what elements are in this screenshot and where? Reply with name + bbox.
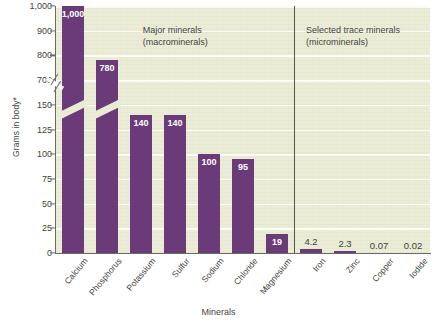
y-tickmark	[50, 104, 55, 105]
x-tick-label: Iodide	[407, 256, 430, 280]
annotation-line: (macrominerals)	[143, 37, 208, 49]
y-tickmark	[50, 80, 55, 81]
y-tick-label: 25	[8, 223, 52, 233]
bar-value-label: 95	[226, 162, 260, 172]
y-tick-label: 50	[8, 199, 52, 209]
y-tickmark	[50, 129, 55, 130]
bar-value-label: 100	[192, 157, 226, 167]
y-axis-tick-labels: 02550751001251507008009001,000	[8, 6, 52, 253]
bar-value-label: 140	[158, 118, 192, 128]
bar-value-label: 0.02	[396, 240, 430, 251]
annotation-trace-minerals: Selected trace minerals(microminerals)	[306, 25, 400, 48]
x-tick-label: Magnesium	[258, 256, 294, 296]
x-tick-label: Calcium	[62, 256, 89, 286]
x-tick-label: Phosphorus	[87, 256, 124, 297]
bar-value-label: 1,000	[56, 9, 90, 19]
y-tick-label: 125	[8, 125, 52, 135]
bar	[130, 115, 151, 253]
bar	[164, 115, 185, 253]
y-tickmark	[50, 5, 55, 6]
x-tick-label: Sulfur	[170, 256, 192, 279]
y-tickmark	[50, 228, 55, 229]
bar-break-stripe	[92, 100, 121, 119]
bar	[198, 154, 219, 253]
annotation-line: (microminerals)	[306, 37, 400, 49]
group-divider-line	[294, 6, 295, 253]
x-tick-label: Iron	[311, 256, 328, 274]
y-tickmark	[50, 30, 55, 31]
y-tick-label: 800	[8, 50, 52, 60]
mineral-composition-chart: Grams in body* 0255075100125150700800900…	[0, 0, 437, 325]
x-tick-label: Potassium	[124, 256, 157, 293]
x-tick-label: Copper	[370, 256, 396, 284]
y-tickmark	[50, 252, 55, 253]
gridline	[56, 6, 430, 8]
bar	[232, 159, 253, 253]
annotation-major-minerals: Major minerals(macrominerals)	[143, 25, 208, 48]
y-tick-label: 1,000	[8, 1, 52, 11]
x-tick-label: Chloride	[232, 256, 260, 287]
bar-value-label: 4.2	[294, 236, 328, 247]
y-axis-line	[55, 6, 56, 254]
y-tick-label: 900	[8, 26, 52, 36]
y-tick-label: 700	[8, 75, 52, 85]
x-tick-label: Zinc	[344, 256, 362, 275]
y-tick-label: 75	[8, 174, 52, 184]
bar-value-label: 780	[90, 63, 124, 73]
y-tick-label: 100	[8, 149, 52, 159]
gridline	[56, 55, 430, 57]
bar	[96, 60, 117, 253]
bar-value-label: 19	[260, 237, 294, 247]
y-tickmark	[50, 154, 55, 155]
y-tick-label: 150	[8, 100, 52, 110]
x-axis-line	[55, 253, 431, 254]
x-tick-label: Sodium	[199, 256, 225, 285]
y-tickmark	[50, 55, 55, 56]
plot-area: 1,00078014014010095194.22.30.070.02 Majo…	[56, 6, 430, 253]
bar-break-stripe	[58, 100, 87, 119]
y-tick-label: 0	[8, 248, 52, 258]
x-axis-title: Minerals	[0, 307, 437, 317]
bar-value-label: 140	[124, 118, 158, 128]
bar	[62, 6, 83, 253]
y-tickmark	[50, 178, 55, 179]
annotation-line: Selected trace minerals	[306, 25, 400, 37]
bar-value-label: 0.07	[362, 240, 396, 251]
x-axis-category-labels: CalciumPhosphorusPotassiumSulfurSodiumCh…	[56, 256, 432, 304]
y-tickmark	[50, 203, 55, 204]
annotation-line: Major minerals	[143, 25, 208, 37]
bar-value-label: 2.3	[328, 238, 362, 249]
